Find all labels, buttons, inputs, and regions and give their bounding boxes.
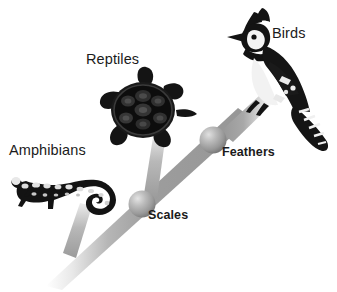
taxon-label-amphibians: Amphibians <box>9 142 86 158</box>
node-label-scales: Scales <box>148 208 188 222</box>
cladogram-figure: Amphibians Reptiles Birds Scales Feather… <box>0 0 337 292</box>
turtle-silhouette <box>100 67 197 147</box>
taxon-label-birds: Birds <box>272 25 306 41</box>
node-label-feathers: Feathers <box>222 145 275 159</box>
salamander-silhouette <box>11 177 116 215</box>
taxon-label-reptiles: Reptiles <box>86 51 139 67</box>
